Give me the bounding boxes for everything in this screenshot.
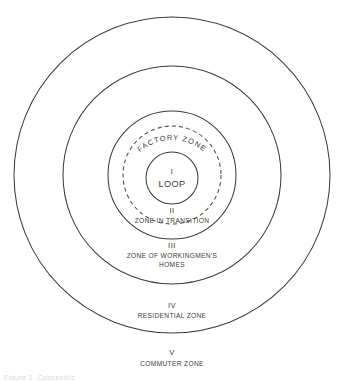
zone-1-name: LOOP — [158, 179, 185, 189]
zone-2-name: ZONE IN TRANSITION — [135, 217, 210, 224]
zone-5-name: COMMUTER ZONE — [140, 360, 204, 367]
zone-3-numeral: III — [168, 241, 176, 250]
zone-3-name-line-1: ZONE OF WORKINGMEN'S — [127, 252, 218, 259]
zone-4-numeral: IV — [168, 301, 177, 310]
ring-zone-1-loop-boundary — [146, 152, 198, 204]
zone-5-numeral: V — [169, 348, 175, 357]
zone-3-name-line-2: HOMES — [159, 261, 185, 268]
caption-fragment: Figure 1. Concentric — [4, 374, 75, 381]
factory-zone-arc-label: FACTORY ZONE — [135, 133, 208, 154]
factory-zone-arc-textpath: FACTORY ZONE — [135, 133, 208, 154]
zone-1-numeral: I — [171, 167, 174, 176]
zone-4-name: RESIDENTIAL ZONE — [138, 312, 207, 319]
zone-2-numeral: II — [169, 206, 174, 215]
